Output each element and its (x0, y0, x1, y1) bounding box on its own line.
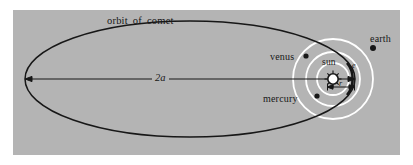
earth-dot (370, 45, 376, 51)
venus-label: venus (270, 52, 294, 62)
major-axis-label: 2a (152, 73, 169, 84)
orbit-figure: orbitofcomet 2a sun venus mercury earth … (0, 0, 413, 165)
mercury-label: mercury (263, 94, 298, 104)
sun-label: sun (322, 58, 336, 68)
earth-label: earth (370, 34, 391, 44)
comet-orbit-label-word2: of (133, 15, 142, 26)
diagram-canvas (0, 0, 413, 165)
comet-orbit-label: orbitofcomet (107, 16, 179, 27)
mercury-dot (314, 93, 319, 98)
comet-orbit-label-word1: orbit (107, 15, 128, 26)
radius-label: r (339, 80, 342, 88)
venus-dot (303, 53, 308, 58)
eccentric-label: e (352, 62, 356, 70)
comet-orbit-label-word3: comet (147, 15, 174, 26)
